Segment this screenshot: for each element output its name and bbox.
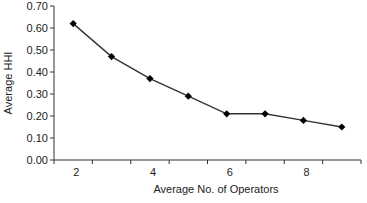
y-axis-title: Average HHI (2, 52, 14, 115)
y-tick-label: 0.50 (27, 44, 48, 56)
diamond-marker (300, 117, 307, 124)
x-tick-label: 6 (227, 166, 233, 178)
series-markers (70, 20, 346, 131)
diamond-marker (185, 93, 192, 100)
x-tick-label: 2 (73, 166, 79, 178)
y-tick-label: 0.20 (27, 110, 48, 122)
x-tick-label: 4 (150, 166, 156, 178)
x-axis-ticks: 2468 (54, 160, 361, 178)
y-tick-label: 0.30 (27, 88, 48, 100)
diamond-marker (338, 123, 345, 130)
diamond-marker (146, 75, 153, 82)
y-tick-label: 0.10 (27, 132, 48, 144)
y-tick-label: 0.70 (27, 0, 48, 12)
x-axis-title: Average No. of Operators (153, 183, 279, 195)
diamond-marker (223, 110, 230, 117)
y-tick-label: 0.40 (27, 66, 48, 78)
y-tick-label: 0.60 (27, 22, 48, 34)
line-chart: 0.000.100.200.300.400.500.600.70 2468 Av… (0, 0, 367, 203)
y-axis-ticks: 0.000.100.200.300.400.500.600.70 (27, 0, 54, 166)
x-tick-label: 8 (303, 166, 309, 178)
series-line (73, 24, 342, 127)
diamond-marker (261, 110, 268, 117)
y-tick-label: 0.00 (27, 154, 48, 166)
